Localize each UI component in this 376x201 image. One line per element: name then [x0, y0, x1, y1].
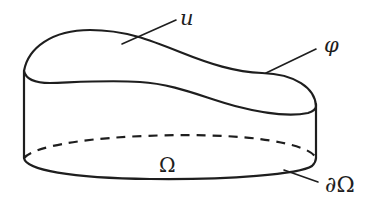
top-surface-front-curve [24, 71, 316, 115]
dirichlet-problem-figure: u φ Ω ∂Ω [0, 0, 376, 201]
leader-line-boundary [284, 170, 318, 182]
diagram-canvas [0, 0, 376, 201]
top-surface-back-curve [24, 30, 316, 106]
label-u: u [180, 8, 194, 29]
label-boundary-omega: ∂Ω [325, 174, 355, 196]
label-phi: φ [324, 35, 339, 56]
leader-line-phi [266, 49, 316, 73]
label-omega: Ω [159, 155, 176, 175]
